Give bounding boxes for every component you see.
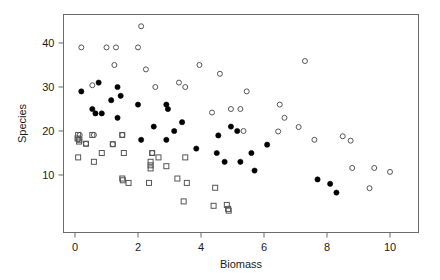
data-point-filled-circle [118,93,123,98]
data-point-open-circle [153,85,158,90]
x-tick-label: 0 [72,241,78,253]
y-tick-label: 20 [42,125,54,137]
data-point-open-square [148,159,153,164]
data-point-filled-circle [151,124,156,129]
data-point-filled-circle [96,80,101,85]
data-point-open-circle [120,132,125,137]
data-point-open-circle [104,45,109,50]
data-point-open-circle [241,129,246,134]
data-point-open-circle [143,67,148,72]
data-point-open-circle [90,83,95,88]
data-point-filled-circle [115,115,120,120]
data-point-filled-circle [194,146,199,151]
data-point-open-square [184,180,189,185]
y-axis-title: Species [16,103,28,143]
data-point-filled-circle [334,190,339,195]
data-point-open-circle [312,137,317,142]
data-point-filled-circle [315,177,320,182]
x-axis-ticks: 0246810 [72,233,396,253]
data-point-open-circle [197,63,202,68]
data-point-open-circle [348,138,353,143]
data-point-open-circle [210,110,215,115]
y-tick-label: 10 [42,169,54,181]
data-point-open-circle [367,186,372,191]
data-point-open-circle [244,89,249,94]
data-point-open-square [213,185,218,190]
plot-canvas: 0246810 10203040 Biomass Species [0,0,440,280]
data-point-filled-circle [139,137,144,142]
data-point-filled-circle [79,89,84,94]
data-point-open-circle [277,102,282,107]
data-point-open-square [175,176,180,181]
data-point-open-circle [136,45,141,50]
data-point-filled-circle [265,142,270,147]
data-point-open-circle [238,107,243,112]
data-point-filled-circle [109,98,114,103]
data-point-filled-circle [99,111,104,116]
data-point-open-square [183,155,188,160]
data-point-open-square [76,155,81,160]
data-point-open-circle [388,169,393,174]
data-point-filled-circle [216,133,221,138]
data-point-filled-circle [165,106,170,111]
data-point-filled-circle [180,120,185,125]
y-tick-label: 40 [42,37,54,49]
data-point-open-square [156,155,161,160]
data-point-open-square [126,180,131,185]
data-point-open-circle [183,85,188,90]
data-point-filled-circle [214,150,219,155]
data-point-filled-circle [135,102,140,107]
data-point-open-circle [112,63,117,68]
data-point-filled-circle [328,181,333,186]
x-axis-title: Biomass [220,258,263,270]
data-point-open-circle [372,165,377,170]
data-point-open-circle [228,107,233,112]
data-point-filled-circle [172,128,177,133]
data-point-filled-circle [252,168,257,173]
data-point-open-square [148,166,153,171]
data-points-layer [75,24,392,213]
data-point-open-circle [113,45,118,50]
data-point-filled-circle [249,150,254,155]
data-point-filled-circle [235,128,240,133]
y-tick-label: 30 [42,81,54,93]
data-point-open-square [148,163,153,168]
data-point-open-circle [79,45,84,50]
series-filled-circle [79,80,339,195]
data-point-open-circle [276,129,281,134]
data-point-open-square [211,203,216,208]
data-point-open-square [164,164,169,169]
data-point-open-circle [350,165,355,170]
data-point-open-circle [296,125,301,130]
data-point-open-circle [176,80,181,85]
x-tick-label: 4 [198,241,204,253]
x-tick-label: 10 [384,241,396,253]
data-point-open-circle [340,134,345,139]
data-point-filled-circle [222,159,227,164]
series-open-circle [76,24,393,191]
data-point-open-square [181,199,186,204]
y-axis-ticks: 10203040 [42,37,63,181]
data-point-open-square [147,180,152,185]
plot-frame [64,15,419,233]
data-point-open-circle [139,24,144,29]
x-tick-label: 8 [324,241,330,253]
data-point-filled-circle [164,137,169,142]
data-point-open-square [99,151,104,156]
data-point-open-square [121,151,126,156]
data-point-filled-circle [115,84,120,89]
data-point-open-circle [282,115,287,120]
data-point-filled-circle [93,111,98,116]
axes-frame-rect [64,15,419,233]
series-open-square [75,132,231,213]
data-point-open-circle [110,142,115,147]
data-point-open-circle [91,132,96,137]
data-point-open-circle [84,141,89,146]
data-point-open-circle [217,71,222,76]
data-point-open-square [91,159,96,164]
data-point-filled-circle [238,159,243,164]
scatter-plot-figure: 0246810 10203040 Biomass Species [0,0,440,280]
x-tick-label: 2 [135,241,141,253]
data-point-open-circle [302,59,307,64]
x-tick-label: 6 [261,241,267,253]
